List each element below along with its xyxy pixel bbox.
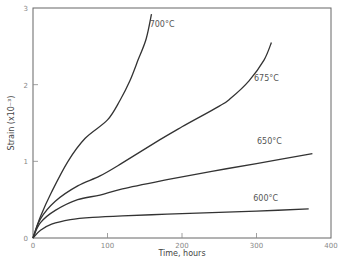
x-tick-label: 300 — [250, 242, 263, 250]
label-650c: 650°C — [257, 137, 282, 146]
x-tick-label: 0 — [31, 242, 35, 250]
y-tick-label: 0 — [24, 235, 28, 243]
y-tick-label: 2 — [24, 82, 28, 90]
creep-strain-chart: 01002003004000123 700°C675°C650°C600°C T… — [0, 0, 344, 263]
plot-frame — [33, 8, 331, 238]
x-tick-label: 400 — [324, 242, 337, 250]
plot-border — [33, 8, 331, 238]
curve-labels: 700°C675°C650°C600°C — [150, 20, 283, 203]
curve-675c — [33, 43, 271, 239]
x-axis-label: Time, hours — [157, 249, 205, 258]
label-675c: 675°C — [254, 74, 279, 83]
data-curves — [33, 14, 312, 238]
y-tick-label: 3 — [24, 5, 28, 13]
curve-600c — [33, 209, 309, 238]
y-tick-label: 1 — [24, 158, 28, 166]
label-700c: 700°C — [150, 20, 175, 29]
curve-700c — [33, 14, 152, 238]
x-tick-label: 100 — [101, 242, 114, 250]
label-600c: 600°C — [253, 194, 278, 203]
y-axis-label: Strain (x10⁻³) — [7, 96, 16, 151]
